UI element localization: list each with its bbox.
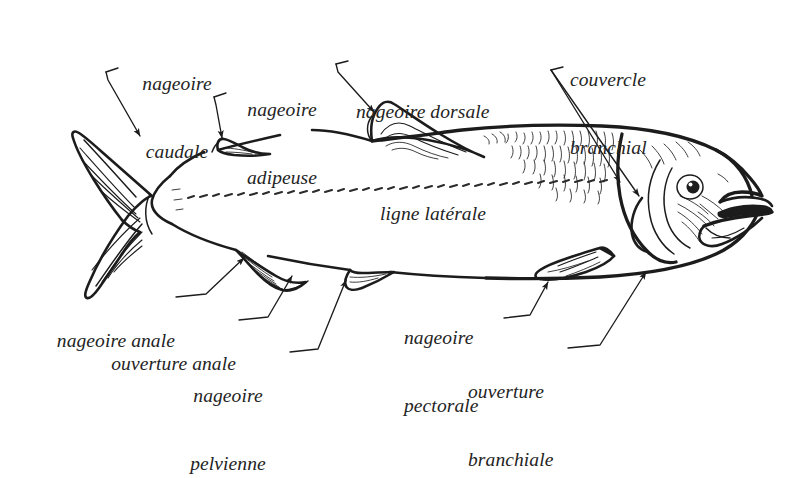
label-pelvic-fin-line1: nageoire: [168, 385, 288, 408]
label-pelvic-fin: nageoire pelvienne: [168, 340, 288, 478]
label-gill-opening: ouverture branchiale: [468, 336, 618, 478]
label-gill-opening-line2: branchiale: [468, 449, 618, 472]
label-pelvic-fin-line2: pelvienne: [168, 453, 288, 476]
label-gill-cover-line2: branchial: [570, 137, 710, 160]
label-adipose-fin-line2: adipeuse: [222, 167, 342, 190]
label-gill-cover: couvercle branchial: [570, 24, 710, 205]
label-adipose-fin-line1: nageoire: [222, 99, 342, 122]
label-lateral-line-line1: ligne latérale: [348, 203, 518, 226]
pelvic-fin: [345, 270, 394, 290]
label-lateral-line: ligne latérale: [348, 158, 518, 271]
label-dorsal-fin-line1: nageoire dorsale: [356, 101, 556, 124]
label-dorsal-fin: nageoire dorsale: [356, 56, 556, 169]
pectoral-fin: [536, 247, 615, 279]
label-gill-cover-line1: couvercle: [570, 69, 710, 92]
label-adipose-fin: nageoire adipeuse: [222, 54, 342, 235]
label-gill-opening-line1: ouverture: [468, 381, 618, 404]
